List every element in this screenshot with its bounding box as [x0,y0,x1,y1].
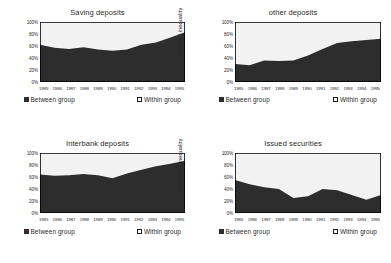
x-tick-group: 1985198619871988198919901991199219931994… [235,86,381,91]
legend-label-between: Between group [226,228,270,235]
y-tick-label: 40% [29,187,38,192]
between-group-swatch-icon [24,97,29,102]
x-tick-label: 1985 [39,217,48,222]
y-tick-label: 40% [224,187,233,192]
y-tick-label: 0% [227,80,233,85]
x-tick-label: 1988 [275,217,284,222]
legend-entry-within: Within group [333,228,377,235]
x-tick-label: 1986 [53,86,62,91]
x-tick-label: 1995 [371,86,380,91]
y-tick-label: 0% [32,80,38,85]
y-tick-label: 40% [224,56,233,61]
x-tick-label: 1989 [289,217,298,222]
y-tick-label: 100% [222,20,233,25]
x-tick-label: 1993 [148,217,157,222]
x-tick-group: 1985198619871988198919901991199219931994… [235,217,381,222]
x-tick-label: 1993 [343,217,352,222]
x-tick-label: 1993 [148,86,157,91]
chart-title: other deposits [195,8,391,17]
y-tick-label: 60% [224,44,233,49]
legend-entry-within: Within group [333,96,377,103]
x-tick-label: 1987 [261,217,270,222]
legend-label-between: Between group [31,228,75,235]
x-tick-label: 1992 [134,217,143,222]
y-tick-label: 80% [224,32,233,37]
plot-area: 0%20%40%60%80%100% 198519861987198819891… [235,153,381,213]
legend-label-within: Within group [144,96,181,103]
legend-entry-between: Between group [24,96,75,103]
area-plot-svg [40,22,185,82]
x-tick-label: 1987 [66,86,75,91]
chart-title: Saving deposits [0,8,195,17]
between-group-swatch-icon [219,229,224,234]
x-tick-label: 1991 [120,86,129,91]
legend-label-between: Between group [226,96,270,103]
legend: Between group Within group [219,228,377,235]
panel-interbank-deposits: Interbank deposits % of total inequality… [0,131,195,263]
panel-saving-deposits: Saving deposits % of total inequality 0%… [0,0,195,131]
x-tick-label: 1990 [302,86,311,91]
y-tick-label: 80% [29,163,38,168]
within-group-swatch-icon [137,97,142,102]
x-tick-label: 1985 [39,86,48,91]
legend-label-within: Within group [340,96,377,103]
x-tick-label: 1995 [175,86,184,91]
y-tick-label: 20% [224,68,233,73]
x-tick-label: 1985 [234,86,243,91]
x-tick-group: 1985198619871988198919901991199219931994… [40,86,185,91]
legend: Between group Within group [24,228,181,235]
legend-entry-within: Within group [137,228,181,235]
x-tick-label: 1990 [302,217,311,222]
x-tick-label: 1994 [161,217,170,222]
between-group-swatch-icon [219,97,224,102]
x-tick-label: 1991 [316,217,325,222]
y-tick-label: 60% [29,175,38,180]
x-tick-label: 1993 [343,86,352,91]
y-tick-label: 0% [32,211,38,216]
y-tick-label: 80% [29,32,38,37]
x-tick-label: 1990 [107,217,116,222]
area-plot-svg [235,153,381,213]
legend-entry-within: Within group [137,96,181,103]
within-group-swatch-icon [137,229,142,234]
y-axis-label: % of total inequality [177,4,187,62]
legend-label-between: Between group [31,96,75,103]
chart-title: Interbank deposits [0,139,195,148]
x-tick-group: 1985198619871988198919901991199219931994… [40,217,185,222]
y-tick-label: 20% [224,199,233,204]
x-tick-label: 1994 [357,86,366,91]
plot-area: 0%20%40%60%80%100% 198519861987198819891… [235,22,381,82]
four-panel-area-chart-figure: Saving deposits % of total inequality 0%… [0,0,391,263]
y-tick-label: 100% [222,151,233,156]
y-tick-label: 80% [224,163,233,168]
x-tick-label: 1992 [330,217,339,222]
legend-entry-between: Between group [219,228,270,235]
within-group-swatch-icon [333,97,338,102]
y-tick-label: 60% [29,44,38,49]
x-tick-label: 1985 [234,217,243,222]
x-tick-label: 1992 [330,86,339,91]
x-tick-label: 1987 [261,86,270,91]
chart-title: Issued securities [195,139,391,148]
y-tick-label: 0% [227,211,233,216]
legend-label-within: Within group [340,228,377,235]
y-tick-label: 100% [27,151,38,156]
y-tick-label: 20% [29,199,38,204]
plot-area: 0%20%40%60%80%100% 198519861987198819891… [40,22,185,82]
y-tick-label: 60% [224,175,233,180]
within-group-swatch-icon [333,229,338,234]
y-tick-label: 40% [29,56,38,61]
y-tick-label: 100% [27,20,38,25]
y-tick-label: 20% [29,68,38,73]
x-tick-label: 1991 [120,217,129,222]
x-tick-label: 1986 [248,86,257,91]
between-group-swatch-icon [24,229,29,234]
x-tick-label: 1995 [175,217,184,222]
area-plot-svg [235,22,381,82]
y-axis-label: % of total inequality [177,135,187,193]
legend: Between group Within group [24,96,181,103]
legend: Between group Within group [219,96,377,103]
x-tick-label: 1991 [316,86,325,91]
legend-entry-between: Between group [219,96,270,103]
legend-entry-between: Between group [24,228,75,235]
